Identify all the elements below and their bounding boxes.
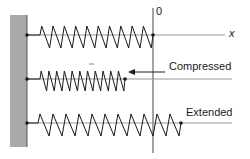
compressed-label: Compressed [169, 61, 231, 72]
spring-extended [38, 114, 181, 136]
compression-arrow-head [128, 69, 135, 75]
wall-anchor-equilibrium [25, 33, 29, 37]
mass-point-compressed [123, 77, 127, 81]
fixed-wall [10, 15, 27, 147]
wall-anchor-extended [25, 121, 29, 125]
mass-point-equilibrium [151, 33, 155, 37]
mass-point-extended [179, 121, 183, 125]
wall-anchor-compressed [25, 77, 29, 81]
x-axis-label: x [229, 28, 235, 39]
spring-equilibrium [40, 26, 153, 48]
springs-group [25, 26, 183, 136]
spring-compressed [40, 71, 125, 91]
origin-label: 0 [156, 6, 162, 17]
extended-label: Extended [186, 107, 232, 118]
spring-diagram [0, 0, 250, 159]
